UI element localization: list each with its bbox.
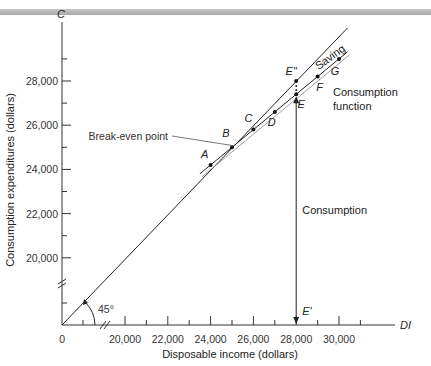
point-label-e-prime: E' <box>302 305 312 317</box>
origin-label: 0 <box>59 333 65 345</box>
point-label-g: G <box>331 65 340 77</box>
x-tick-label: 22,000 <box>152 333 184 345</box>
point-label-b: B <box>222 127 229 139</box>
point-label-c: C <box>244 112 252 124</box>
y-tick-label: 28,000 <box>26 75 58 87</box>
x-tick-label: 20,000 <box>109 333 141 345</box>
point-label-f: F <box>316 81 324 93</box>
x-tick-label: 26,000 <box>237 333 269 345</box>
x-tick-label: 24,000 <box>195 333 227 345</box>
y-tick-label: 20,000 <box>26 252 58 264</box>
point-d <box>273 110 277 114</box>
x-axis-symbol: DI <box>400 319 411 331</box>
point-label-e: E <box>298 98 306 110</box>
consumption-function-label-line2: function <box>333 100 372 112</box>
angle-label: 45° <box>98 303 114 315</box>
y-axis-symbol: C <box>57 8 65 20</box>
point-e <box>294 92 298 96</box>
consumption-function-label-line1: Consumption <box>333 86 398 98</box>
x-tick-label: 28,000 <box>280 333 312 345</box>
consumption-chart: 20,00022,00024,00026,00028,00030,00020,0… <box>0 0 431 366</box>
point-label-e-double-prime: E'' <box>285 65 297 77</box>
point-b <box>230 145 234 149</box>
45-degree-line <box>62 28 348 325</box>
consumption-arrow-label: Consumption <box>302 204 367 216</box>
point-label-a: A <box>200 148 208 160</box>
y-tick-label: 26,000 <box>26 119 58 131</box>
point-a <box>209 163 213 167</box>
y-axis-title: Consumption expenditures (dollars) <box>4 93 16 267</box>
break-even-label: Break-even point <box>89 130 168 142</box>
x-tick-label: 30,000 <box>323 333 355 345</box>
point-f <box>316 75 320 79</box>
point-label-d: D <box>268 116 276 128</box>
y-tick-label: 22,000 <box>26 208 58 220</box>
y-tick-label: 24,000 <box>26 163 58 175</box>
point-c <box>251 128 255 132</box>
point-e-double-prime <box>294 79 298 83</box>
consumption-arrowhead-down <box>293 317 299 324</box>
angle-arc <box>85 302 95 325</box>
x-axis-title: Disposable income (dollars) <box>162 348 298 360</box>
